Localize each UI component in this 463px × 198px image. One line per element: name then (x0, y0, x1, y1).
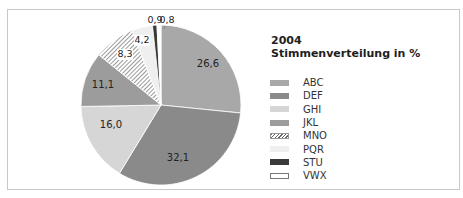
legend-item-ghi: GHI (270, 103, 327, 116)
chart-title: 2004 Stimmenverteilung in % (271, 34, 420, 60)
legend-swatch (270, 106, 289, 112)
legend-swatch (270, 80, 289, 86)
pie-slices (81, 25, 241, 185)
legend-swatch (270, 120, 289, 126)
chart-legend: ABC DEF GHI JKL MNO PQR STU VWX (270, 76, 327, 182)
legend-item-abc: ABC (270, 76, 327, 89)
legend-item-jkl: JKL (270, 116, 327, 129)
chart-year: 2004 (271, 34, 420, 47)
slice-value-label: 4,2 (134, 34, 149, 45)
legend-label: STU (303, 157, 323, 168)
slice-value-label: 11,1 (92, 79, 114, 90)
legend-item-mno: MNO (270, 129, 327, 142)
legend-item-def: DEF (270, 89, 327, 102)
slice-value-label: 8,3 (117, 48, 132, 59)
legend-swatch (270, 133, 289, 139)
pie-chart: 26,632,116,011,18,34,20,90,8 (0, 0, 463, 198)
legend-label: VWX (303, 170, 327, 181)
slice-value-label: 32,1 (167, 152, 189, 163)
legend-label: MNO (303, 130, 327, 141)
legend-swatch (270, 93, 289, 99)
legend-item-pqr: PQR (270, 142, 327, 155)
legend-label: DEF (303, 90, 323, 101)
legend-swatch (270, 173, 289, 179)
pie-slice-abc (161, 25, 241, 113)
legend-label: ABC (303, 77, 324, 88)
legend-item-vwx: VWX (270, 169, 327, 182)
legend-label: JKL (303, 117, 318, 128)
slice-value-label: 26,6 (197, 58, 219, 69)
slice-value-label: 16,0 (100, 119, 122, 130)
legend-label: PQR (303, 144, 324, 155)
slice-value-label: 0,8 (159, 14, 174, 25)
chart-subtitle: Stimmenverteilung in % (271, 47, 420, 60)
legend-swatch (270, 146, 289, 152)
legend-swatch (270, 159, 289, 165)
legend-item-stu: STU (270, 156, 327, 169)
legend-label: GHI (303, 104, 321, 115)
